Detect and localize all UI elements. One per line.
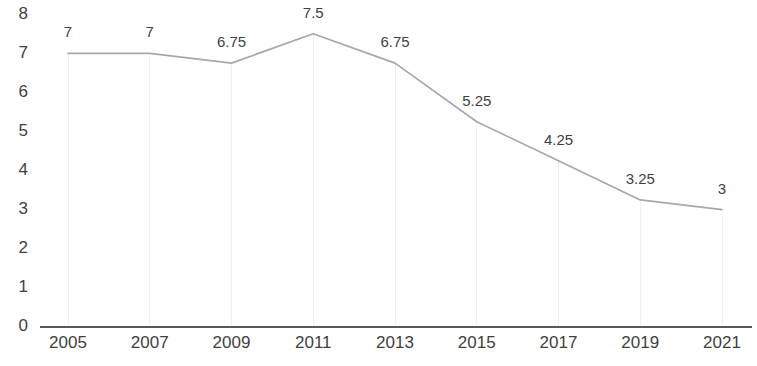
y-axis-label-6: 6 <box>19 82 28 101</box>
chart-canvas: 876543210 200520072009201120132015201720… <box>0 0 757 366</box>
x-axis-label-2015: 2015 <box>458 333 496 352</box>
gridlines <box>68 34 722 327</box>
data-label-2021: 3 <box>718 180 726 197</box>
data-label-2013: 6.75 <box>380 33 409 50</box>
y-axis-tick-labels: 876543210 <box>19 4 28 336</box>
data-label-2007: 7 <box>146 23 154 40</box>
y-axis-label-1: 1 <box>19 277 28 296</box>
y-axis-label-0: 0 <box>19 316 28 335</box>
x-axis-label-2011: 2011 <box>295 333 332 352</box>
x-axis-label-2007: 2007 <box>131 333 169 352</box>
x-axis-label-2009: 2009 <box>213 333 251 352</box>
y-axis-label-2: 2 <box>19 238 28 257</box>
x-axis-tick-labels: 200520072009201120132015201720192021 <box>49 333 741 352</box>
y-axis-label-8: 8 <box>19 4 28 23</box>
x-axis-label-2021: 2021 <box>703 333 741 352</box>
line-chart: 876543210 200520072009201120132015201720… <box>0 0 757 366</box>
data-label-2005: 7 <box>64 23 72 40</box>
x-axis-label-2005: 2005 <box>49 333 87 352</box>
y-axis-label-7: 7 <box>19 43 28 62</box>
data-label-2017: 4.25 <box>544 131 573 148</box>
y-axis-label-3: 3 <box>19 199 28 218</box>
x-axis-label-2013: 2013 <box>376 333 414 352</box>
data-label-2019: 3.25 <box>626 170 655 187</box>
data-label-2009: 6.75 <box>217 33 246 50</box>
x-axis-label-2017: 2017 <box>540 333 578 352</box>
data-label-2011: 7.5 <box>303 4 324 21</box>
y-axis-label-4: 4 <box>19 160 28 179</box>
data-label-2015: 5.25 <box>462 92 491 109</box>
x-axis-label-2019: 2019 <box>621 333 659 352</box>
y-axis-label-5: 5 <box>19 121 28 140</box>
